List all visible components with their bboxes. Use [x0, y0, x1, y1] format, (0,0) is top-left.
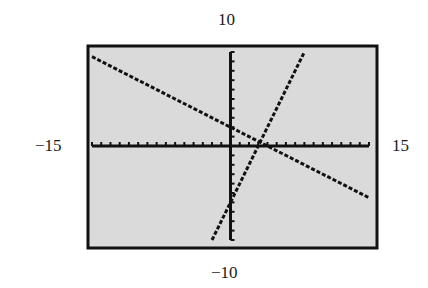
xmax-label: 15 [392, 137, 409, 154]
ymax-label: 10 [218, 11, 235, 28]
xmin-label: −15 [35, 137, 62, 154]
ymin-label: −10 [211, 264, 238, 281]
graph-window [0, 0, 428, 288]
